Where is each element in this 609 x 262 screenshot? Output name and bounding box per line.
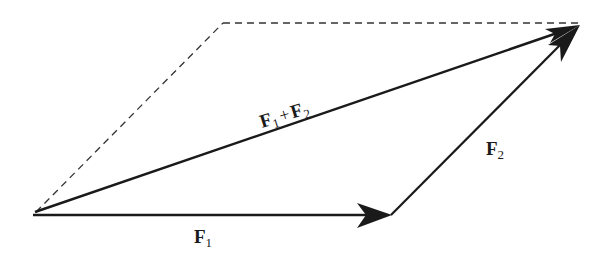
vector-f2 [391,25,580,215]
dashed-edge-left [36,23,223,212]
label-f2: F2 [486,138,504,162]
label-f1: F1 [194,226,212,250]
vector-f1 [33,203,392,228]
vector-addition-diagram: F1 F2 F1+F2 [0,0,609,262]
label-resultant: F1+F2 [257,97,312,135]
